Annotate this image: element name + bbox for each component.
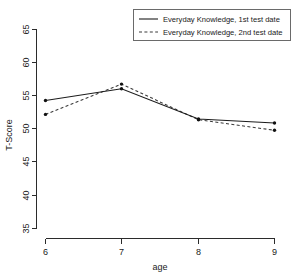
- series-markers-1st-test-date: [44, 87, 276, 125]
- data-point: [273, 121, 276, 124]
- y-tick-label-45: 45: [21, 156, 31, 166]
- y-tick-label-55: 55: [21, 90, 31, 100]
- y-tick-label-60: 60: [21, 57, 31, 67]
- data-point: [44, 113, 47, 116]
- series-line-2nd-test-date: [46, 84, 275, 130]
- data-point: [120, 87, 123, 90]
- line-chart: 65 60 55 50 45 40 35 6 7 8 9 age T-Score: [0, 0, 298, 276]
- x-tick-label-9: 9: [272, 247, 277, 257]
- x-axis-tick-labels: 6 7 8 9: [43, 247, 277, 257]
- y-axis-tick-labels: 65 60 55 50 45 40 35: [21, 24, 31, 233]
- x-axis-title: age: [152, 262, 167, 272]
- x-tick-label-7: 7: [119, 247, 124, 257]
- y-tick-label-50: 50: [21, 123, 31, 133]
- x-axis-ticks: [46, 239, 275, 244]
- y-tick-label-40: 40: [21, 190, 31, 200]
- y-tick-label-35: 35: [21, 223, 31, 233]
- series-markers-2nd-test-date: [44, 82, 276, 132]
- data-point: [44, 99, 47, 102]
- y-tick-label-65: 65: [21, 24, 31, 34]
- legend-label-1st-test-date: Everyday Knowledge, 1st test date: [163, 15, 280, 24]
- x-tick-label-6: 6: [43, 247, 48, 257]
- series-line-1st-test-date: [46, 89, 275, 123]
- y-axis-title: T-Score: [4, 119, 14, 151]
- chart-legend: Everyday Knowledge, 1st test date Everyd…: [134, 10, 291, 41]
- data-point: [273, 129, 276, 132]
- data-point: [197, 117, 200, 120]
- x-tick-label-8: 8: [196, 247, 201, 257]
- chart-figure: 65 60 55 50 45 40 35 6 7 8 9 age T-Score: [0, 0, 298, 276]
- legend-label-2nd-test-date: Everyday Knowledge, 2nd test date: [163, 28, 282, 37]
- data-point: [120, 82, 123, 85]
- y-axis-ticks: [32, 30, 37, 229]
